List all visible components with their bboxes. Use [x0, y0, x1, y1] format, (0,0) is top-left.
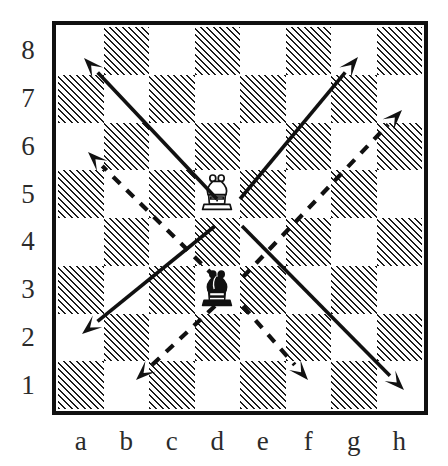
board-square-f7	[286, 75, 332, 123]
board-square-a1	[58, 361, 104, 409]
rank-label-3: 3	[8, 276, 48, 303]
board-square-c6	[149, 123, 195, 171]
file-label-g: g	[331, 428, 377, 455]
board-square-h5	[377, 170, 423, 218]
file-label-d: d	[195, 428, 241, 455]
board-square-c2	[149, 314, 195, 362]
board-square-g7	[331, 75, 377, 123]
board-square-d7	[195, 75, 241, 123]
board-square-a7	[58, 75, 104, 123]
piece-white-bishop	[195, 171, 240, 218]
board-square-b2	[104, 314, 150, 362]
board-square-g8	[331, 27, 377, 75]
file-label-a: a	[58, 428, 104, 455]
file-label-c: c	[149, 428, 195, 455]
board-square-b1	[104, 361, 150, 409]
board-square-h4	[377, 218, 423, 266]
board-square-f1	[286, 361, 332, 409]
rank-label-8: 8	[8, 37, 48, 64]
rank-label-2: 2	[8, 324, 48, 351]
board-square-f5	[286, 170, 332, 218]
file-label-e: e	[240, 428, 286, 455]
board-square-g2	[331, 314, 377, 362]
board-square-g3	[331, 266, 377, 314]
rank-label-1: 1	[8, 372, 48, 399]
board-square-c8	[149, 27, 195, 75]
board-square-c1	[149, 361, 195, 409]
board-square-e1	[240, 361, 286, 409]
board-square-h2	[377, 314, 423, 362]
rank-label-5: 5	[8, 181, 48, 208]
board-square-e4	[240, 218, 286, 266]
board-square-h3	[377, 266, 423, 314]
board-square-c7	[149, 75, 195, 123]
board-square-h8	[377, 27, 423, 75]
board-square-c4	[149, 218, 195, 266]
board-square-b7	[104, 75, 150, 123]
board-square-b5	[104, 170, 150, 218]
board-square-h1	[377, 361, 423, 409]
board-square-b3	[104, 266, 150, 314]
board-square-b6	[104, 123, 150, 171]
file-label-b: b	[104, 428, 150, 455]
board-square-g1	[331, 361, 377, 409]
board-square-a6	[58, 123, 104, 171]
file-label-f: f	[286, 428, 332, 455]
board-square-g5	[331, 170, 377, 218]
chess-diagram: 8 7 6 5 4 3 2 1	[0, 0, 448, 466]
board-square-e7	[240, 75, 286, 123]
board-square-a4	[58, 218, 104, 266]
board-square-b4	[104, 218, 150, 266]
board-square-b8	[104, 27, 150, 75]
board-square-h7	[377, 75, 423, 123]
file-labels: a b c d e f g h	[58, 419, 422, 463]
board-square-f3	[286, 266, 332, 314]
board-square-c3	[149, 266, 195, 314]
board-square-e6	[240, 123, 286, 171]
board-square-d6	[195, 123, 241, 171]
file-label-h: h	[377, 428, 423, 455]
board-square-d8	[195, 27, 241, 75]
board-square-e2	[240, 314, 286, 362]
board-square-h6	[377, 123, 423, 171]
board-square-a2	[58, 314, 104, 362]
board-square-c5	[149, 170, 195, 218]
rank-label-4: 4	[8, 228, 48, 255]
piece-black-bishop	[195, 266, 240, 313]
board-square-a8	[58, 27, 104, 75]
board-square-d1	[195, 361, 241, 409]
board-square-e8	[240, 27, 286, 75]
board-square-d2	[195, 314, 241, 362]
board-square-f6	[286, 123, 332, 171]
rank-labels: 8 7 6 5 4 3 2 1	[8, 27, 48, 409]
board-square-f8	[286, 27, 332, 75]
board-squares	[58, 27, 422, 409]
board-square-f2	[286, 314, 332, 362]
board-square-d4	[195, 218, 241, 266]
board-square-g6	[331, 123, 377, 171]
rank-label-7: 7	[8, 85, 48, 112]
board-square-f4	[286, 218, 332, 266]
board-square-e5	[240, 170, 286, 218]
board-square-g4	[331, 218, 377, 266]
board-square-e3	[240, 266, 286, 314]
board-square-a5	[58, 170, 104, 218]
rank-label-6: 6	[8, 133, 48, 160]
board-square-a3	[58, 266, 104, 314]
